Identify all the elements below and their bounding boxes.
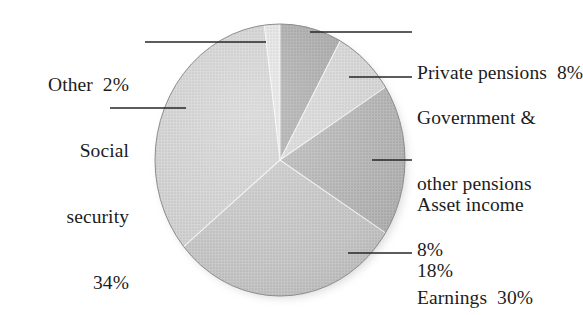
label-earnings: Earnings 30% <box>417 243 533 315</box>
label-social-line-2: security <box>66 206 129 228</box>
label-government-line-1: Government & <box>417 107 536 129</box>
label-other-text: Other 2% <box>48 74 129 96</box>
label-social-line-3: 34% <box>66 272 129 294</box>
label-earnings-text: Earnings 30% <box>417 287 533 309</box>
label-social-security: Social security 34% <box>66 96 129 315</box>
label-social-line-1: Social <box>66 140 129 162</box>
label-asset-line-1: Asset income <box>417 194 524 216</box>
